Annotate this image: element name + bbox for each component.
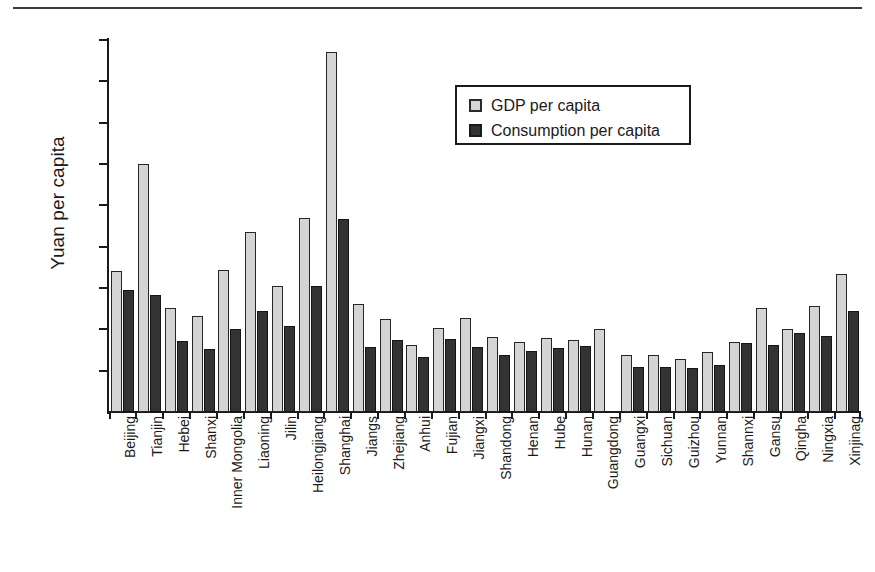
bar-gdp bbox=[809, 306, 820, 412]
bar-consumption bbox=[204, 349, 215, 412]
bar-group bbox=[353, 40, 380, 412]
bar-gdp bbox=[192, 316, 203, 412]
bar-group bbox=[836, 40, 863, 412]
bar-group bbox=[702, 40, 729, 412]
legend-swatch-consumption-icon bbox=[469, 124, 482, 137]
bar-group bbox=[782, 40, 809, 412]
bar-gdp bbox=[406, 345, 417, 412]
x-tick-label: Henan bbox=[524, 416, 538, 457]
x-tick-label: Hebei bbox=[175, 416, 189, 453]
bar-group bbox=[729, 40, 756, 412]
bar-gdp bbox=[460, 318, 471, 412]
x-tick-label: Qingha bbox=[792, 416, 806, 461]
bar-consumption bbox=[553, 348, 564, 412]
x-tick-label: Yunnan bbox=[712, 416, 726, 464]
x-tick-label: Heilongjiang bbox=[309, 416, 323, 493]
bar-consumption bbox=[365, 347, 376, 412]
bar-gdp bbox=[621, 355, 632, 412]
bar-group bbox=[380, 40, 407, 412]
y-axis-tick bbox=[99, 370, 108, 372]
chart-legend: GDP per capita Consumption per capita bbox=[455, 85, 691, 145]
x-tick-label: Shandong bbox=[497, 416, 511, 480]
bar-gdp bbox=[648, 355, 659, 412]
bar-consumption bbox=[714, 365, 725, 412]
x-tick-label: Guizhou bbox=[685, 416, 699, 468]
bar-consumption bbox=[418, 357, 429, 412]
x-tick-label: Beijing bbox=[121, 416, 135, 458]
bar-consumption bbox=[794, 333, 805, 412]
legend-entry-consumption: Consumption per capita bbox=[469, 118, 679, 143]
bar-group bbox=[809, 40, 836, 412]
x-tick-label: Hunan bbox=[578, 416, 592, 457]
bar-consumption bbox=[150, 295, 161, 412]
x-tick-label: Zhejiang bbox=[390, 416, 404, 470]
bar-gdp bbox=[272, 286, 283, 412]
x-tick-label: Jiangs bbox=[363, 416, 377, 456]
bar-group bbox=[756, 40, 783, 412]
x-tick-label: Shanxi bbox=[202, 416, 216, 459]
legend-label-consumption: Consumption per capita bbox=[491, 123, 660, 139]
bar-gdp bbox=[138, 164, 149, 412]
bar-consumption bbox=[687, 368, 698, 412]
bar-consumption bbox=[499, 355, 510, 412]
x-tick-label: Shannxi bbox=[739, 416, 753, 467]
bar-consumption bbox=[284, 326, 295, 412]
x-tick-label: Ningxia bbox=[819, 416, 833, 463]
x-tick-label: Liaoning bbox=[255, 416, 269, 469]
x-tick-label: Anhui bbox=[416, 416, 430, 452]
x-tick-label: Hube bbox=[551, 416, 565, 449]
legend-label-gdp: GDP per capita bbox=[491, 98, 600, 114]
x-tick-label: Xinjinag bbox=[846, 416, 860, 466]
bar-consumption bbox=[472, 347, 483, 412]
y-axis-tick bbox=[99, 39, 108, 41]
bar-consumption bbox=[633, 367, 644, 412]
y-axis-tick bbox=[99, 287, 108, 289]
bar-group bbox=[192, 40, 219, 412]
bar-gdp bbox=[218, 270, 229, 412]
top-horizontal-rule bbox=[13, 7, 862, 9]
bar-group bbox=[406, 40, 433, 412]
x-tick-label: Inner Mongolia bbox=[228, 416, 242, 509]
legend-entry-gdp: GDP per capita bbox=[469, 93, 679, 118]
bar-gdp bbox=[299, 218, 310, 412]
bar-group bbox=[299, 40, 326, 412]
legend-swatch-gdp-icon bbox=[469, 99, 482, 112]
y-axis-tick bbox=[99, 204, 108, 206]
y-axis-tick bbox=[99, 122, 108, 124]
bar-gdp bbox=[514, 342, 525, 412]
bar-group bbox=[272, 40, 299, 412]
bar-consumption bbox=[392, 340, 403, 412]
bar-gdp bbox=[433, 328, 444, 412]
bar-consumption bbox=[311, 286, 322, 412]
x-tick-label: Fujian bbox=[443, 416, 457, 454]
bar-gdp bbox=[756, 308, 767, 412]
bar-consumption bbox=[741, 343, 752, 412]
bar-group bbox=[165, 40, 192, 412]
bar-consumption bbox=[768, 345, 779, 412]
bar-gdp bbox=[729, 342, 740, 412]
bar-consumption bbox=[580, 346, 591, 412]
bar-gdp bbox=[675, 359, 686, 412]
bar-consumption bbox=[177, 341, 188, 412]
x-tick-label: Tianjin bbox=[148, 416, 162, 457]
bar-gdp bbox=[702, 352, 713, 412]
bar-consumption bbox=[848, 311, 859, 412]
bar-consumption bbox=[821, 336, 832, 412]
bar-gdp bbox=[568, 340, 579, 412]
y-axis-tick bbox=[99, 246, 108, 248]
bar-consumption bbox=[230, 329, 241, 412]
x-tick-label: Guangxi bbox=[631, 416, 645, 468]
bar-gdp bbox=[353, 304, 364, 412]
bar-group bbox=[245, 40, 272, 412]
bar-consumption bbox=[526, 351, 537, 412]
bar-gdp bbox=[245, 232, 256, 412]
bar-consumption bbox=[123, 290, 134, 412]
y-axis-tick bbox=[99, 163, 108, 165]
x-axis-tick-labels: BeijingTianjinHebeiShanxiInner MongoliaL… bbox=[108, 416, 860, 566]
bar-group bbox=[111, 40, 138, 412]
y-axis-tick-labels: 050100150200250300350400450 bbox=[0, 40, 108, 412]
y-axis-tick bbox=[99, 328, 108, 330]
x-tick-label: Shanghai bbox=[336, 416, 350, 475]
x-tick-label: Gansu bbox=[766, 416, 780, 457]
bar-consumption bbox=[660, 367, 671, 412]
